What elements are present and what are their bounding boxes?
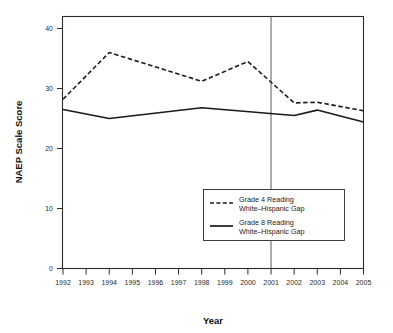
chart-container: 010203040 199219931994199519961997199819… <box>0 0 393 333</box>
x-tick-label-1994: 1994 <box>101 279 117 286</box>
y-tick-label-0: 0 <box>49 265 53 272</box>
x-tick-label-2003: 2003 <box>309 279 325 286</box>
x-tick-label-2005: 2005 <box>356 279 372 286</box>
x-tick-label-2001: 2001 <box>263 279 279 286</box>
legend-label-grade-8-line2: White–Hispanic Gap <box>239 227 305 236</box>
x-tick-label-1993: 1993 <box>78 279 94 286</box>
y-tick-label-10: 10 <box>45 205 53 212</box>
legend: Grade 4 Reading White–Hispanic Gap Grade… <box>204 190 345 241</box>
x-tick-label-1992: 1992 <box>55 279 71 286</box>
x-tick-label-1996: 1996 <box>148 279 164 286</box>
x-tick-label-1998: 1998 <box>194 279 210 286</box>
line-chart: 010203040 199219931994199519961997199819… <box>0 0 393 333</box>
legend-label-grade-8-line1: Grade 8 Reading <box>239 218 294 227</box>
legend-label-grade-4-line2: White–Hispanic Gap <box>239 204 305 213</box>
x-tick-label-2002: 2002 <box>286 279 302 286</box>
x-tick-label-1997: 1997 <box>171 279 187 286</box>
x-axis-title: Year <box>203 315 223 326</box>
x-tick-label-1999: 1999 <box>217 279 233 286</box>
x-tick-label-2000: 2000 <box>240 279 256 286</box>
legend-label-grade-4-line1: Grade 4 Reading <box>239 195 294 204</box>
x-tick-label-2004: 2004 <box>333 279 349 286</box>
x-tick-label-1995: 1995 <box>125 279 141 286</box>
y-tick-label-40: 40 <box>45 25 53 32</box>
y-axis-title: NAEP Scale Score <box>13 101 24 184</box>
y-tick-label-20: 20 <box>45 145 53 152</box>
y-tick-label-30: 30 <box>45 85 53 92</box>
